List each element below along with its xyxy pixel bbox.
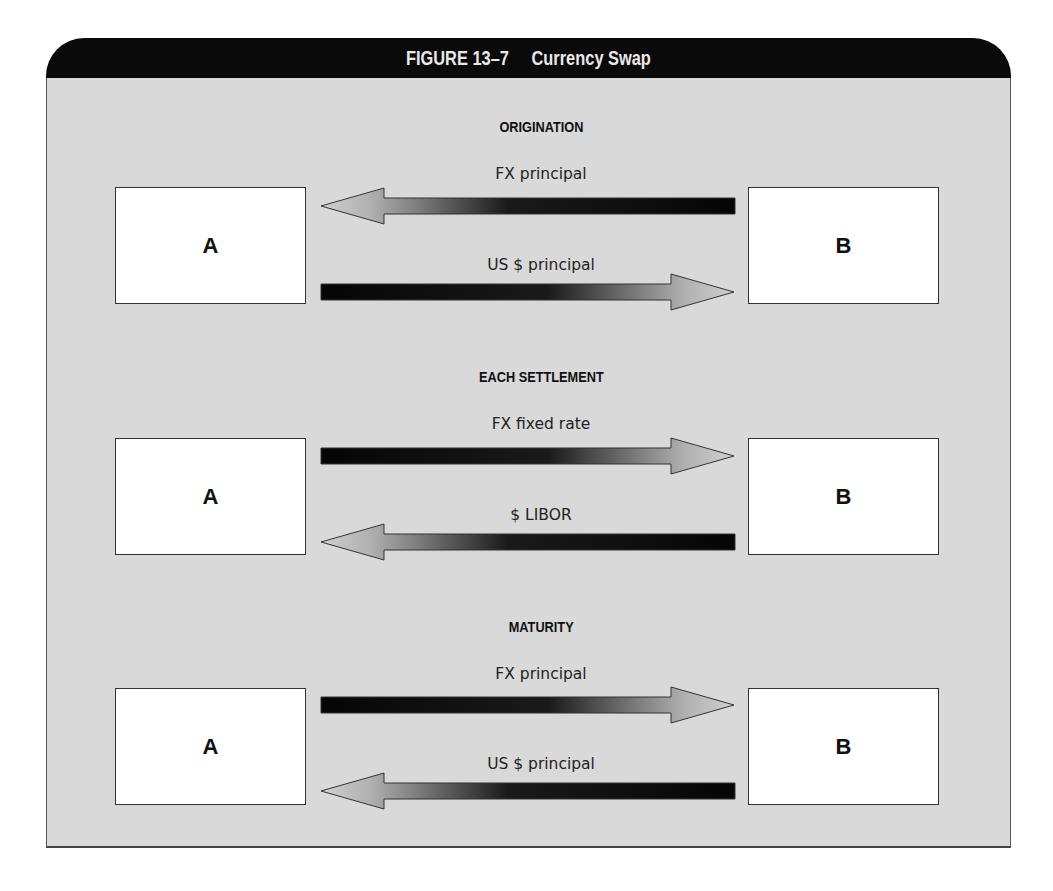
flow-label-usd-libor: $ LIBOR — [391, 506, 691, 524]
flow-label-usd-principal: US $ principal — [391, 755, 691, 773]
party-box-a-maturity: A — [115, 688, 306, 805]
party-box-a-origination: A — [115, 187, 306, 304]
arrow-right-icon — [319, 273, 737, 311]
section-title-origination: ORIGINATION — [391, 118, 691, 135]
figure-header: FIGURE 13–7 Currency Swap — [46, 38, 1011, 78]
section-title-each-settlement: EACH SETTLEMENT — [391, 368, 691, 385]
party-box-a-settlement: A — [115, 438, 306, 555]
party-box-b-origination: B — [748, 187, 939, 304]
arrow-right-icon — [319, 686, 737, 724]
party-box-b-settlement: B — [748, 438, 939, 555]
flow-label-fx-fixed-rate: FX fixed rate — [391, 415, 691, 433]
flow-label-fx-principal: FX principal — [391, 665, 691, 683]
flow-label-fx-principal: FX principal — [391, 165, 691, 183]
figure-number: FIGURE 13–7 — [406, 47, 509, 69]
arrow-left-icon — [319, 523, 737, 561]
figure-body: ORIGINATION A B FX principal US $ princi… — [46, 78, 1011, 848]
section-title-maturity: MATURITY — [391, 618, 691, 635]
arrow-left-icon — [319, 187, 737, 225]
arrow-right-icon — [319, 437, 737, 475]
figure-title: Currency Swap — [532, 47, 651, 69]
figure-currency-swap: FIGURE 13–7 Currency Swap ORIGINATION A … — [46, 38, 1011, 847]
party-box-b-maturity: B — [748, 688, 939, 805]
flow-label-usd-principal: US $ principal — [391, 256, 691, 274]
arrow-left-icon — [319, 772, 737, 810]
